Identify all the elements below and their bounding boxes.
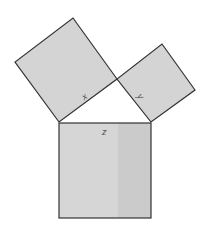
- pythagoras-diagram: x y z: [0, 0, 212, 231]
- square-y: [117, 44, 195, 122]
- label-z: z: [101, 127, 107, 137]
- square-z-shade: [118, 123, 151, 218]
- square-x: [15, 18, 117, 122]
